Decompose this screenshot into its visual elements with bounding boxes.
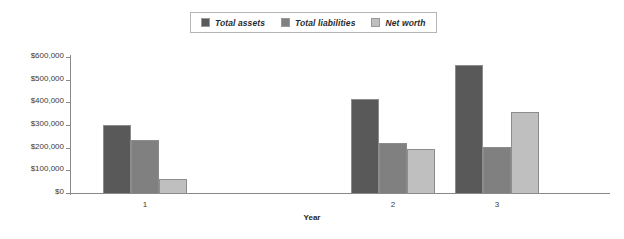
bar-group [103, 57, 187, 193]
y-axis-tick-mark [66, 193, 70, 194]
x-axis-line [70, 193, 610, 194]
x-axis-category-label: 1 [100, 200, 190, 209]
bar-group [455, 57, 539, 193]
y-axis-tick-label: $600,000 [31, 51, 64, 60]
bar [351, 99, 379, 193]
y-axis-tick-mark [66, 125, 70, 126]
y-axis-line [70, 55, 71, 195]
y-axis-tick-label: $0 [55, 187, 64, 196]
legend-swatch-total-assets [201, 18, 210, 27]
y-axis-tick-mark [66, 102, 70, 103]
bar [483, 147, 511, 193]
legend-label-total-assets: Total assets [215, 18, 265, 28]
bar-chart: Total assets Total liabilities Net worth… [0, 0, 624, 239]
legend-item-net-worth: Net worth [371, 18, 425, 28]
legend-swatch-total-liabilities [281, 18, 290, 27]
legend-item-total-liabilities: Total liabilities [281, 18, 355, 28]
x-axis-category-label: 2 [348, 200, 438, 209]
y-axis-tick-mark [66, 170, 70, 171]
y-axis-tick: $200,000 [0, 148, 70, 149]
bar [103, 125, 131, 193]
legend-label-net-worth: Net worth [385, 18, 425, 28]
bar [407, 149, 435, 193]
y-axis-tick: $100,000 [0, 170, 70, 171]
y-axis-tick: $300,000 [0, 125, 70, 126]
y-axis-tick: $500,000 [0, 80, 70, 81]
legend-label-total-liabilities: Total liabilities [295, 18, 355, 28]
bar [511, 112, 539, 193]
bar [455, 65, 483, 193]
legend-swatch-net-worth [371, 18, 380, 27]
y-axis-tick-label: $300,000 [31, 119, 64, 128]
legend-item-total-assets: Total assets [201, 18, 265, 28]
y-axis-tick: $400,000 [0, 102, 70, 103]
x-axis-title: Year [0, 213, 624, 222]
bar [379, 143, 407, 193]
y-axis-tick-label: $500,000 [31, 74, 64, 83]
bar [131, 140, 159, 193]
bar-group [351, 57, 435, 193]
y-axis-tick-label: $400,000 [31, 96, 64, 105]
y-axis-tick-label: $200,000 [31, 142, 64, 151]
y-axis-tick-label: $100,000 [31, 164, 64, 173]
y-axis-tick-mark [66, 148, 70, 149]
x-axis-category-label: 3 [452, 200, 542, 209]
y-axis-tick: $0 [0, 193, 70, 194]
y-axis-tick: $600,000 [0, 57, 70, 58]
chart-legend: Total assets Total liabilities Net worth [190, 12, 437, 33]
y-axis-tick-mark [66, 57, 70, 58]
y-axis-tick-mark [66, 80, 70, 81]
bar [159, 179, 187, 193]
